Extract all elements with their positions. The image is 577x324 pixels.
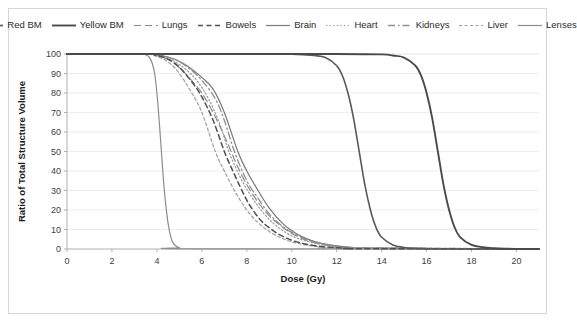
y-tick-label-80: 80 — [51, 88, 61, 98]
x-tick-label-6: 6 — [199, 256, 204, 266]
legend-label-brain: Brain — [294, 20, 316, 30]
legend-label-red-bm: Red BM — [7, 20, 41, 30]
y-tick-label-70: 70 — [51, 108, 61, 118]
legend-swatch-red-bm — [0, 21, 4, 30]
x-tick-label-10: 10 — [287, 256, 297, 266]
legend-swatch-brain — [265, 21, 291, 30]
x-tick-label-20: 20 — [512, 256, 522, 266]
x-tick-label-18: 18 — [467, 256, 477, 266]
y-tick-label-0: 0 — [56, 244, 61, 254]
plot-svg: 010203040506070809010002468101214161820D… — [9, 33, 548, 291]
legend-item-lenses[interactable]: Lenses — [517, 20, 577, 30]
y-tick-label-20: 20 — [51, 205, 61, 215]
y-tick-label-100: 100 — [46, 49, 61, 59]
x-tick-label-0: 0 — [64, 256, 69, 266]
legend-swatch-lenses — [517, 21, 543, 30]
plot-area: 010203040506070809010002468101214161820D… — [9, 33, 548, 291]
x-tick-label-14: 14 — [377, 256, 387, 266]
legend-item-brain[interactable]: Brain — [265, 20, 316, 30]
y-axis-title: Ratio of Total Structure Volume — [16, 81, 27, 222]
legend-swatch-lungs — [133, 21, 159, 30]
y-tick-label-10: 10 — [51, 225, 61, 235]
x-tick-label-16: 16 — [422, 256, 432, 266]
legend-item-yellow-bm[interactable]: Yellow BM — [51, 20, 124, 30]
x-tick-label-12: 12 — [332, 256, 342, 266]
legend-swatch-heart — [325, 21, 351, 30]
legend-swatch-kidneys — [387, 21, 413, 30]
legend-label-lungs: Lungs — [162, 20, 188, 30]
y-tick-label-60: 60 — [51, 127, 61, 137]
legend-label-kidneys: Kidneys — [416, 20, 450, 30]
x-tick-label-8: 8 — [244, 256, 249, 266]
legend-item-kidneys[interactable]: Kidneys — [387, 20, 450, 30]
legend-label-yellow-bm: Yellow BM — [80, 20, 124, 30]
x-tick-label-4: 4 — [154, 256, 159, 266]
legend-item-heart[interactable]: Heart — [325, 20, 377, 30]
legend-swatch-liver — [458, 21, 484, 30]
legend-swatch-bowels — [197, 21, 223, 30]
y-tick-label-30: 30 — [51, 186, 61, 196]
x-axis-title: Dose (Gy) — [281, 273, 326, 284]
x-tick-label-2: 2 — [109, 256, 114, 266]
y-tick-label-90: 90 — [51, 69, 61, 79]
legend-label-bowels: Bowels — [226, 20, 257, 30]
legend-item-liver[interactable]: Liver — [458, 20, 508, 30]
legend-swatch-yellow-bm — [51, 21, 77, 30]
legend-label-lenses: Lenses — [546, 20, 577, 30]
y-tick-label-40: 40 — [51, 166, 61, 176]
legend-item-bowels[interactable]: Bowels — [197, 20, 257, 30]
chart-legend: Red BMYellow BMLungsBowelsBrainHeartKidn… — [9, 15, 546, 35]
legend-item-red-bm[interactable]: Red BM — [0, 20, 42, 30]
legend-label-heart: Heart — [354, 20, 377, 30]
chart-container: Red BMYellow BMLungsBowelsBrainHeartKidn… — [8, 8, 547, 314]
legend-item-lungs[interactable]: Lungs — [133, 20, 188, 30]
y-tick-label-50: 50 — [51, 147, 61, 157]
legend-label-liver: Liver — [487, 20, 508, 30]
